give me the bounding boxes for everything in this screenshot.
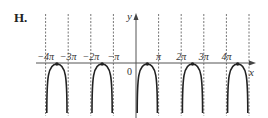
curve-branch bbox=[228, 64, 248, 113]
peak-point bbox=[55, 62, 59, 66]
y-axis-arrow-icon bbox=[134, 13, 139, 20]
x-tick-label: −π bbox=[108, 51, 121, 62]
peak-point bbox=[236, 62, 240, 66]
x-tick-label: 4π bbox=[221, 51, 232, 62]
curve-branch bbox=[137, 64, 157, 113]
peak-point bbox=[100, 62, 104, 66]
x-axis-label: x bbox=[248, 66, 254, 78]
tick-labels: −4π−3π−2π−ππ2π3π4π bbox=[37, 51, 232, 62]
curve-branch bbox=[47, 64, 67, 113]
graph: −4π−3π−2π−ππ2π3π4π x y 0 bbox=[0, 0, 268, 118]
x-tick-label: π bbox=[156, 51, 162, 62]
peak-point bbox=[191, 62, 195, 66]
curve-branch bbox=[182, 64, 202, 113]
y-axis-label: y bbox=[126, 10, 132, 22]
curve-branch bbox=[92, 64, 112, 113]
x-tick-label: −2π bbox=[82, 51, 100, 62]
curve-branches bbox=[47, 62, 248, 113]
x-tick-label: −3π bbox=[60, 51, 78, 62]
x-axis-arrow-icon bbox=[249, 61, 256, 66]
x-tick-label: 3π bbox=[198, 51, 210, 62]
origin-label: 0 bbox=[127, 66, 132, 77]
x-tick-label: 2π bbox=[176, 51, 187, 62]
peak-point bbox=[146, 62, 150, 66]
x-tick-label: −4π bbox=[37, 51, 55, 62]
axes bbox=[36, 13, 256, 118]
